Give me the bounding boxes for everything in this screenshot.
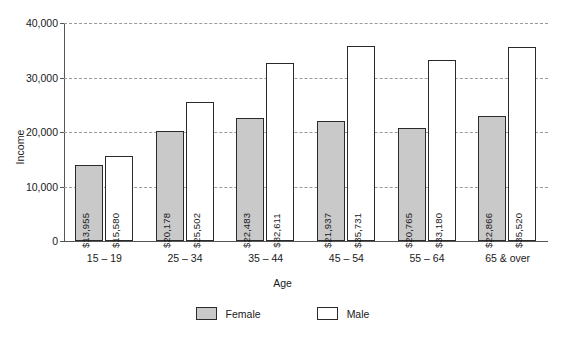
- plot-area: $13,955$15,580$20,178$25,502$22,483$32,6…: [64, 23, 548, 241]
- bar-value-label: $32,611: [272, 213, 282, 247]
- bar-value-label: $21,937: [323, 212, 333, 247]
- gridline: [64, 132, 548, 133]
- bar-group: $22,866$35,520: [478, 23, 536, 241]
- bar-male[interactable]: $35,731: [347, 46, 375, 241]
- x-axis-tick-label: 15 – 19: [64, 252, 145, 264]
- bar-female[interactable]: $20,765: [398, 128, 426, 241]
- bar-value-label: $35,731: [353, 212, 363, 247]
- bar-male[interactable]: $25,502: [186, 102, 214, 241]
- x-axis-tick-label: 45 – 54: [306, 252, 387, 264]
- bar-female[interactable]: $21,937: [317, 121, 345, 241]
- bar-male[interactable]: $15,580: [105, 156, 133, 241]
- bar-value-label: $13,955: [81, 212, 91, 247]
- y-axis-tickmark: [60, 23, 64, 24]
- bar-group: $20,765$33,180: [398, 23, 456, 241]
- x-axis-tick-label: 65 & over: [467, 252, 548, 264]
- bar-male[interactable]: $33,180: [428, 60, 456, 241]
- bar-value-label: $15,580: [111, 212, 121, 247]
- x-axis-title: Age: [0, 277, 565, 289]
- x-axis-tick-label: 55 – 64: [387, 252, 468, 264]
- bar-female[interactable]: $22,866: [478, 116, 506, 241]
- legend-swatch: [196, 307, 217, 320]
- bar-group: $20,178$25,502: [156, 23, 214, 241]
- x-axis-tick-label: 35 – 44: [225, 252, 306, 264]
- y-axis-tick-label: 30,000: [2, 73, 58, 84]
- bar-female[interactable]: $22,483: [236, 118, 264, 241]
- y-axis-tick-label: 20,000: [2, 127, 58, 138]
- legend-label: Female: [226, 308, 261, 320]
- bar-male[interactable]: $35,520: [508, 47, 536, 241]
- bar-value-label: $20,765: [403, 212, 413, 247]
- bar-group: $13,955$15,580: [75, 23, 133, 241]
- bar-group: $22,483$32,611: [236, 23, 294, 241]
- y-axis-tick-label: 40,000: [2, 18, 58, 29]
- legend-swatch: [317, 307, 338, 320]
- bar-chart: Income 010,00020,00030,00040,000 $13,955…: [0, 0, 565, 337]
- bar-female[interactable]: $13,955: [75, 165, 103, 241]
- bar-value-label: $22,483: [242, 212, 252, 247]
- bar-male[interactable]: $32,611: [266, 63, 294, 241]
- bar-value-label: $33,180: [433, 212, 443, 247]
- y-axis-tick-label: 0: [2, 236, 58, 247]
- legend-item[interactable]: Male: [317, 307, 370, 320]
- y-axis-tickmark: [60, 187, 64, 188]
- legend: FemaleMale: [0, 307, 565, 320]
- bar-female[interactable]: $20,178: [156, 131, 184, 241]
- bar-value-label: $25,502: [191, 212, 201, 247]
- bar-value-label: $35,520: [514, 212, 524, 247]
- gridline: [64, 187, 548, 188]
- y-axis-tickmark: [60, 241, 64, 242]
- bar-value-label: $20,178: [161, 212, 171, 247]
- y-axis-tickmark: [60, 78, 64, 79]
- gridline: [64, 78, 548, 79]
- bar-group: $21,937$35,731: [317, 23, 375, 241]
- x-axis-line: [64, 241, 548, 242]
- bar-value-label: $22,866: [484, 212, 494, 247]
- gridline: [64, 23, 548, 24]
- y-axis-tick-label: 10,000: [2, 182, 58, 193]
- x-axis-tick-label: 25 – 34: [145, 252, 226, 264]
- legend-item[interactable]: Female: [196, 307, 261, 320]
- y-axis-tickmark: [60, 132, 64, 133]
- legend-label: Male: [347, 308, 370, 320]
